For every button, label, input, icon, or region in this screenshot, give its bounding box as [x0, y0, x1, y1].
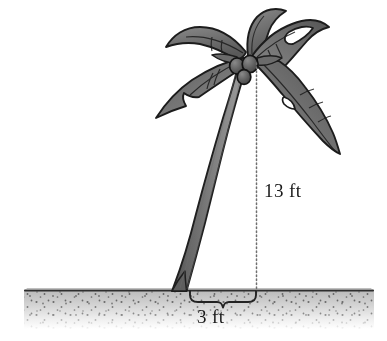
- frond-left-upper: [166, 27, 246, 60]
- palm-tree-diagram: 13 ft 3 ft: [0, 0, 387, 341]
- frond-right-lower: [252, 60, 340, 154]
- diagram-artwork: [0, 0, 387, 341]
- height-dimension-label: 13 ft: [264, 181, 301, 200]
- frond-left-upper-shape: [166, 27, 246, 60]
- dimension-annotations: [190, 63, 257, 308]
- coconut-bottom: [237, 70, 251, 85]
- width-dimension-label: 3 ft: [197, 307, 224, 326]
- palm-crown: [156, 9, 340, 154]
